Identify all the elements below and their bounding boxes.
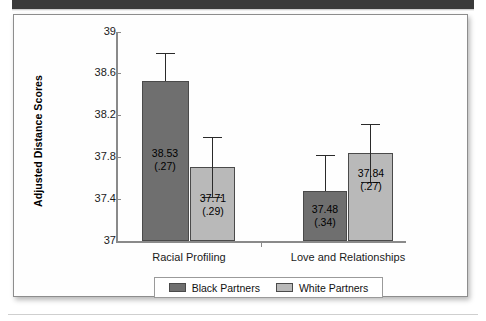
bar-chart-plot: Adjusted Distance Scores 39 38.6 38.2 37… — [14, 15, 469, 298]
error-bar-racial-profiling-black — [165, 53, 166, 81]
y-tick-mark-38-6 — [116, 73, 121, 74]
legend-swatch-white-partners — [276, 283, 293, 292]
x-tick-mark-center — [261, 241, 262, 247]
error-cap-top-love-relationships-white — [361, 124, 380, 125]
x-axis-label-love-and-relationships: Love and Relationships — [263, 251, 433, 263]
legend-item-white-partners[interactable]: White Partners — [276, 282, 368, 294]
legend-swatch-black-partners — [169, 283, 186, 292]
y-tick-mark-39 — [116, 32, 121, 33]
top-banner-shadow — [12, 9, 474, 11]
error-bar-racial-profiling-white — [212, 137, 213, 197]
legend-item-black-partners[interactable]: Black Partners — [169, 282, 260, 294]
top-banner — [12, 0, 474, 9]
error-cap-love-relationships-black — [316, 155, 335, 156]
legend-label-white-partners: White Partners — [299, 282, 368, 294]
bar-value-love-relationships-black: 37.48 (.34) — [297, 203, 353, 228]
y-axis-line — [116, 32, 118, 242]
legend-label-black-partners: Black Partners — [192, 282, 260, 294]
y-tick-mark-37-8 — [116, 157, 121, 158]
error-cap-racial-profiling-black — [156, 53, 175, 54]
bar-value-racial-profiling-black: 38.53 (.27) — [137, 147, 193, 172]
y-tick-label-37-8: 37.8 — [76, 150, 116, 162]
bar-value-racial-profiling-white: 37.71 (.29) — [185, 192, 241, 217]
chart-legend: Black Partners White Partners — [154, 277, 383, 298]
error-bar-love-relationships-black — [325, 155, 326, 191]
bottom-rule — [8, 314, 478, 315]
error-cap-top-racial-profiling-white — [203, 137, 222, 138]
y-tick-label-38-2: 38.2 — [76, 108, 116, 120]
y-tick-label-38-6: 38.6 — [76, 66, 116, 78]
y-axis-title: Adjusted Distance Scores — [32, 53, 44, 229]
y-tick-label-37: 37 — [76, 234, 116, 246]
figure-panel: Adjusted Distance Scores 39 38.6 38.2 37… — [13, 14, 468, 297]
y-tick-label-39: 39 — [76, 25, 116, 37]
y-tick-mark-37 — [116, 241, 121, 242]
y-tick-mark-37-4 — [116, 199, 121, 200]
y-tick-label-37-4: 37.4 — [76, 192, 116, 204]
bar-value-love-relationships-white: 37.84 (.27) — [343, 167, 399, 192]
y-tick-mark-38-2 — [116, 115, 121, 116]
x-axis-label-racial-profiling: Racial Profiling — [104, 251, 274, 263]
